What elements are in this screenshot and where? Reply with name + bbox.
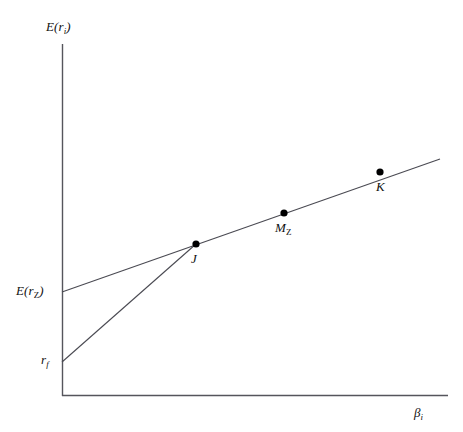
y-axis-label-main: E(r <box>46 19 64 34</box>
point-mz-label: MZ <box>275 221 291 237</box>
x-axis-label: βi <box>414 406 423 422</box>
risk-free-rate-label: rf <box>41 353 49 369</box>
figure-canvas <box>0 0 463 432</box>
point-mz-subscript: Z <box>286 227 292 237</box>
x-axis-label-subscript: i <box>421 412 424 422</box>
security-market-line-figure: E(ri) βi E(rZ) rf J MZ K <box>0 0 463 432</box>
zero-beta-return-label: E(rZ) <box>16 284 44 300</box>
data-point-k <box>376 168 383 175</box>
y-axis-label: E(ri) <box>46 20 71 36</box>
risk-free-rate-subscript: f <box>46 359 49 369</box>
zero-beta-return-close: ) <box>39 283 43 298</box>
point-mz-main: M <box>275 220 286 235</box>
data-point-j <box>192 240 199 247</box>
point-j-label: J <box>191 252 197 265</box>
risk-free-tangency-line <box>62 244 196 362</box>
point-k-label: K <box>376 180 385 193</box>
zero-beta-return-main: E(r <box>16 283 34 298</box>
x-axis-label-main: β <box>414 405 421 420</box>
data-point-mz <box>280 209 287 216</box>
y-axis-label-close: ) <box>66 19 70 34</box>
